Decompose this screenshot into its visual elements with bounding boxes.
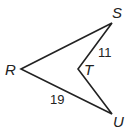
vertex-label-r: R <box>5 61 16 78</box>
vertex-label-t: T <box>84 61 95 78</box>
segment-label-ru: 19 <box>50 92 64 107</box>
quadrilateral-RSTU <box>21 23 112 114</box>
vertex-label-s: S <box>112 4 122 21</box>
vertex-label-u: U <box>113 113 124 129</box>
segment-label-st: 11 <box>98 45 112 60</box>
geometry-diagram: S R T U 11 19 <box>0 0 135 129</box>
